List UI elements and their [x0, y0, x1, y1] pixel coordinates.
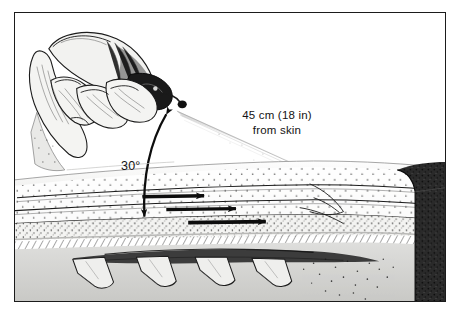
figure-root: 45 cm (18 in) from skin 30° [0, 0, 461, 316]
spray-distance-label: 45 cm (18 in) from skin [213, 108, 341, 137]
flow-arrow [166, 209, 236, 210]
illustration-frame: 45 cm (18 in) from skin 30° [14, 12, 446, 302]
skin-cross-section [15, 161, 445, 301]
flow-arrow [142, 196, 204, 197]
illustration-artwork [15, 13, 445, 301]
flow-arrow [188, 222, 266, 223]
spray-angle-label: 30° [121, 160, 141, 173]
distance-label-line-1: 45 cm (18 in) [213, 108, 341, 123]
distance-label-line-2: from skin [213, 123, 341, 138]
